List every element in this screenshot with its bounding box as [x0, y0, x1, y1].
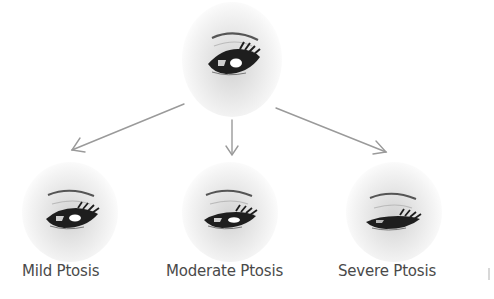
arrow-to-mild	[72, 104, 184, 152]
eye-mild-ptosis-icon	[22, 162, 122, 262]
moderate-ptosis-label: Moderate Ptosis	[166, 262, 283, 280]
mild-ptosis-node	[22, 162, 122, 262]
moderate-ptosis-node	[182, 162, 282, 262]
eye-moderate-ptosis-icon	[182, 162, 282, 262]
mild-ptosis-label: Mild Ptosis	[22, 262, 99, 280]
severe-ptosis-label: Severe Ptosis	[338, 262, 436, 280]
edge-artifact	[488, 268, 490, 280]
eye-severe-ptosis-icon	[346, 162, 446, 262]
arrow-to-moderate	[226, 120, 238, 155]
arrow-to-severe	[276, 108, 386, 154]
severe-ptosis-node	[346, 162, 446, 262]
